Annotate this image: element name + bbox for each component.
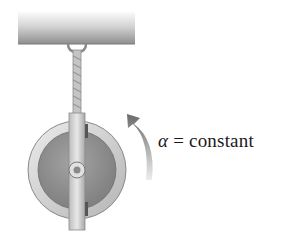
rope: [73, 50, 81, 114]
alpha-symbol: α: [158, 130, 168, 151]
angular-acceleration-arrow-icon: [127, 114, 153, 180]
constant-text: constant: [189, 130, 254, 151]
pulley-wheel: [28, 113, 126, 230]
angular-acceleration-label: α = constant: [158, 130, 254, 152]
ceiling-beam: [18, 12, 135, 44]
pulley-diagram: [0, 0, 295, 240]
equals-sign: =: [168, 130, 189, 151]
